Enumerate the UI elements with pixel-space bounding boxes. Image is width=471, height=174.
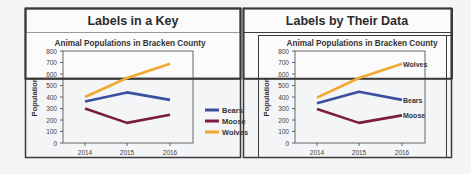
legend-label-bears: Bears — [222, 106, 243, 115]
chart-title: Animal Populations in Bracken County — [286, 39, 437, 48]
series-line-bears — [317, 92, 402, 104]
y-tick-label: 200 — [46, 117, 57, 124]
x-tick-label: 2015 — [120, 149, 135, 156]
y-tick-label: 400 — [46, 94, 57, 101]
y-tick-label: 100 — [278, 128, 289, 135]
y-tick-label: 400 — [278, 94, 289, 101]
left-panel-title: Labels in a Key — [87, 14, 178, 28]
y-tick-label: 600 — [46, 71, 57, 78]
x-tick-label: 2015 — [352, 149, 367, 156]
y-axis-label: Population — [262, 77, 271, 116]
y-tick-label: 800 — [278, 48, 289, 55]
x-tick-label: 2014 — [310, 149, 325, 156]
y-tick-label: 0 — [285, 140, 289, 147]
right-panel-title: Labels by Their Data — [286, 14, 409, 28]
y-tick-label: 100 — [46, 128, 57, 135]
y-tick-label: 300 — [46, 105, 57, 112]
charts-canvas: Labels in a KeyLabels by Their DataAnima… — [0, 0, 471, 174]
y-tick-label: 0 — [53, 140, 57, 147]
y-tick-label: 200 — [278, 117, 289, 124]
y-tick-label: 700 — [278, 59, 289, 66]
x-tick-label: 2014 — [78, 149, 93, 156]
y-tick-label: 500 — [278, 82, 289, 89]
chart-title: Animal Populations in Bracken County — [54, 39, 205, 48]
y-tick-label: 800 — [46, 48, 57, 55]
x-tick-label: 2016 — [163, 149, 178, 156]
data-label-bears: Bears — [403, 97, 423, 104]
y-tick-label: 600 — [278, 71, 289, 78]
series-line-moose — [85, 109, 170, 123]
x-tick-label: 2016 — [395, 149, 410, 156]
y-tick-label: 500 — [46, 82, 57, 89]
legend-label-moose: Moose — [222, 117, 246, 126]
y-tick-label: 700 — [46, 59, 57, 66]
y-axis-label: Population — [30, 77, 39, 116]
data-label-wolves: Wolves — [403, 61, 427, 68]
series-line-bears — [85, 92, 170, 101]
series-line-moose — [317, 109, 402, 123]
data-label-moose: Moose — [403, 112, 425, 119]
y-tick-label: 300 — [278, 105, 289, 112]
